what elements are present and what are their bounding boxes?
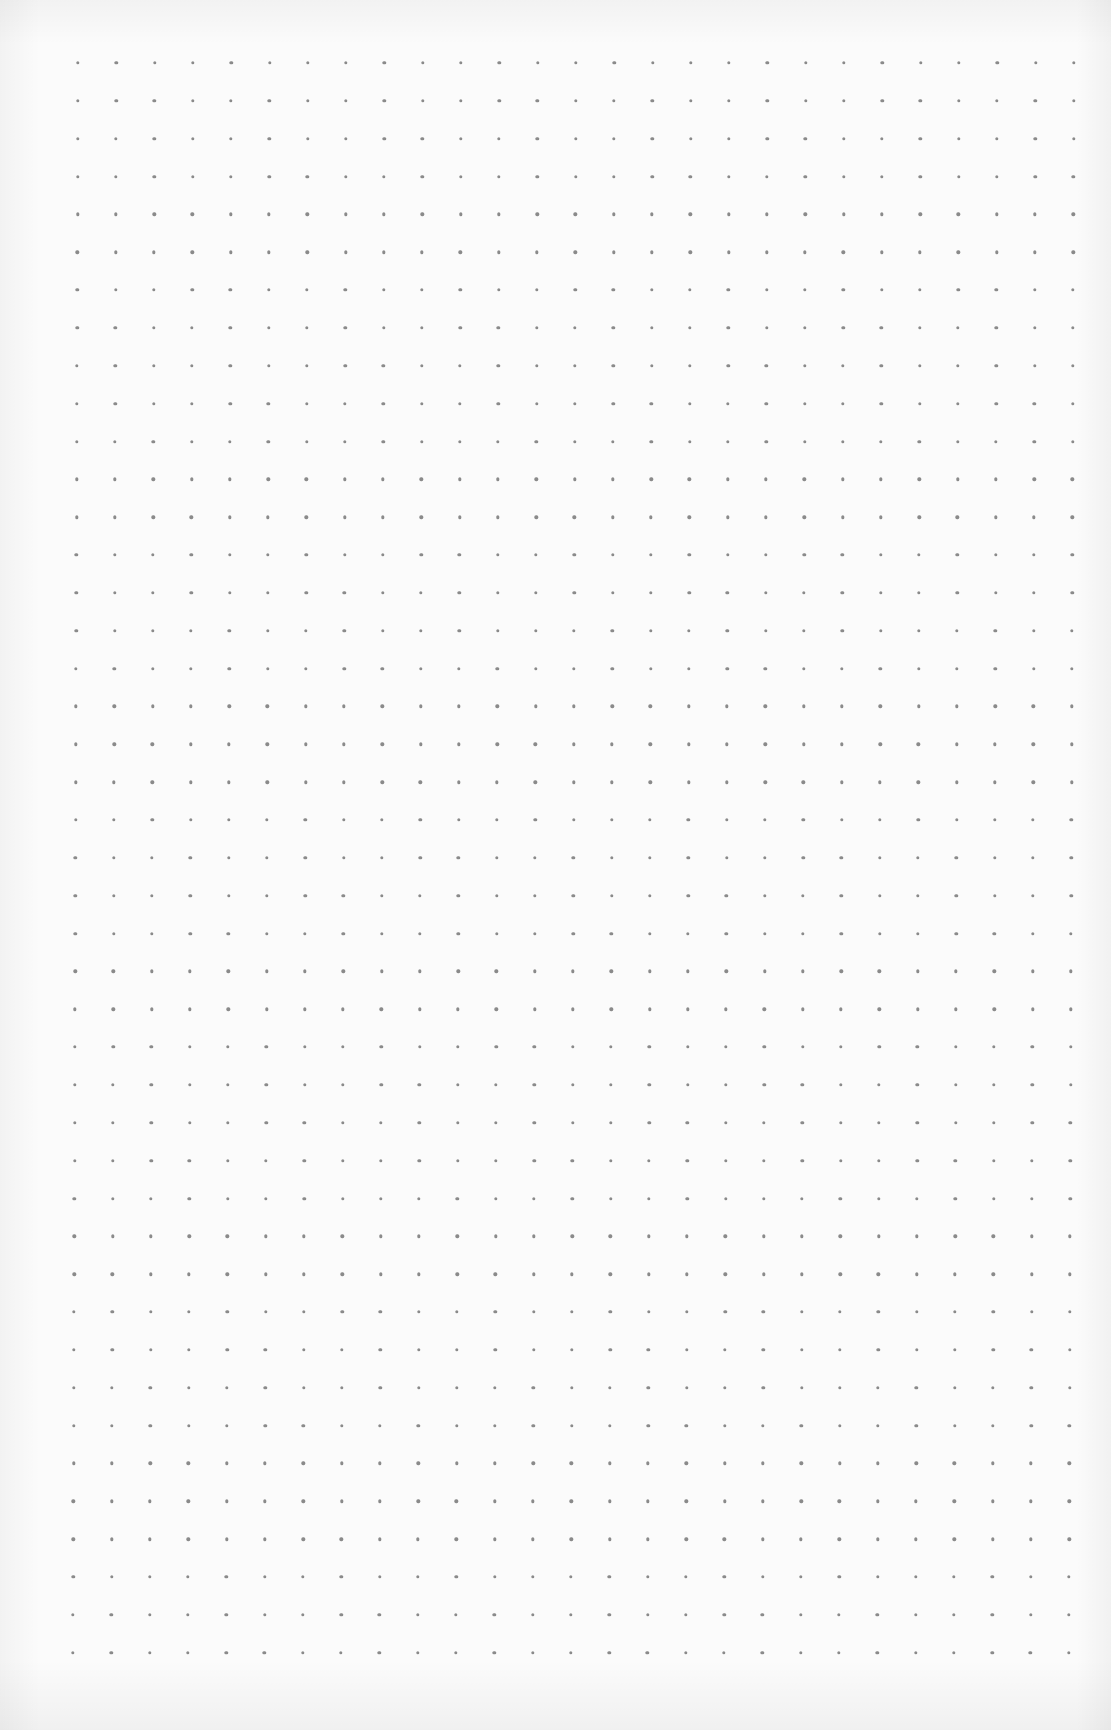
grid-dot xyxy=(1034,99,1037,102)
grid-dot xyxy=(531,1462,534,1465)
grid-dot xyxy=(955,894,958,897)
grid-dot xyxy=(573,553,576,556)
grid-dot xyxy=(953,1310,956,1313)
grid-dot xyxy=(800,1197,803,1200)
grid-dot xyxy=(919,61,922,64)
grid-dot xyxy=(689,175,692,178)
grid-dot xyxy=(495,818,498,821)
grid-dot xyxy=(225,1462,228,1465)
grid-dot xyxy=(188,1008,191,1011)
grid-dot xyxy=(727,288,730,291)
grid-dot xyxy=(340,1462,343,1465)
grid-dot xyxy=(74,780,77,783)
grid-dot xyxy=(841,591,844,594)
grid-dot xyxy=(416,1537,419,1540)
grid-dot xyxy=(838,1386,841,1389)
grid-dot xyxy=(916,1008,919,1011)
grid-dot xyxy=(381,629,384,632)
grid-dot xyxy=(1032,667,1035,670)
grid-dot xyxy=(383,99,386,102)
grid-dot xyxy=(455,1386,458,1389)
grid-dot xyxy=(227,894,230,897)
grid-dot xyxy=(956,402,959,405)
grid-dot xyxy=(150,1121,153,1124)
grid-dot xyxy=(497,213,500,216)
grid-dot xyxy=(72,1310,75,1313)
grid-dot xyxy=(1030,1197,1033,1200)
grid-dot xyxy=(804,175,807,178)
grid-dot xyxy=(954,932,957,935)
grid-dot xyxy=(1071,251,1074,254)
grid-dot xyxy=(1068,1348,1071,1351)
grid-dot xyxy=(689,213,692,216)
grid-dot xyxy=(73,1008,76,1011)
grid-dot xyxy=(495,894,498,897)
grid-dot xyxy=(1031,1083,1034,1086)
grid-dot xyxy=(995,213,998,216)
grid-dot xyxy=(838,1462,841,1465)
grid-dot xyxy=(534,743,537,746)
grid-dot xyxy=(379,1083,382,1086)
grid-dot xyxy=(457,894,460,897)
grid-dot xyxy=(305,402,308,405)
grid-dot xyxy=(340,1386,343,1389)
grid-dot xyxy=(339,1651,342,1654)
grid-dot xyxy=(226,1159,229,1162)
grid-dot xyxy=(803,364,806,367)
grid-dot xyxy=(840,629,843,632)
grid-dot xyxy=(226,1083,229,1086)
grid-dot xyxy=(649,780,652,783)
grid-dot xyxy=(342,856,345,859)
grid-dot xyxy=(110,1575,113,1578)
grid-dot xyxy=(112,818,115,821)
grid-dot xyxy=(840,894,843,897)
grid-dot xyxy=(378,1651,381,1654)
grid-dot xyxy=(916,970,919,973)
grid-dot xyxy=(800,1235,803,1238)
grid-dot xyxy=(1069,1083,1072,1086)
grid-dot xyxy=(879,705,882,708)
grid-dot xyxy=(992,1121,995,1124)
grid-dot xyxy=(1068,1424,1071,1427)
grid-dot xyxy=(1029,1537,1032,1540)
grid-dot xyxy=(802,818,805,821)
grid-dot xyxy=(1069,970,1072,973)
grid-dot xyxy=(189,743,192,746)
grid-dot xyxy=(152,288,155,291)
grid-dot xyxy=(688,251,691,254)
grid-dot xyxy=(344,61,347,64)
grid-dot xyxy=(648,1083,651,1086)
grid-dot xyxy=(1030,1235,1033,1238)
grid-dot xyxy=(381,515,384,518)
grid-dot xyxy=(723,1537,726,1540)
grid-dot xyxy=(455,1272,458,1275)
grid-dot xyxy=(647,1310,650,1313)
grid-dot xyxy=(839,1121,842,1124)
grid-dot xyxy=(876,1575,879,1578)
grid-dot xyxy=(73,1083,76,1086)
grid-dot xyxy=(342,970,345,973)
grid-dot xyxy=(723,1310,726,1313)
grid-dot xyxy=(1033,440,1036,443)
grid-dot xyxy=(725,856,728,859)
grid-dot xyxy=(803,515,806,518)
grid-dot xyxy=(459,213,462,216)
grid-dot xyxy=(956,515,959,518)
grid-dot xyxy=(608,1424,611,1427)
grid-dot xyxy=(955,705,958,708)
grid-dot xyxy=(919,175,922,178)
dot-grid-page xyxy=(0,0,1111,1730)
grid-dot xyxy=(1071,478,1074,481)
grid-dot xyxy=(612,251,615,254)
grid-dot xyxy=(919,99,922,102)
grid-dot xyxy=(685,1348,688,1351)
grid-dot xyxy=(840,818,843,821)
grid-dot xyxy=(990,1651,993,1654)
grid-dot xyxy=(458,553,461,556)
grid-dot xyxy=(842,213,845,216)
grid-dot xyxy=(497,175,500,178)
grid-dot xyxy=(955,780,958,783)
grid-dot xyxy=(572,856,575,859)
grid-dot xyxy=(571,1083,574,1086)
grid-dot xyxy=(993,894,996,897)
